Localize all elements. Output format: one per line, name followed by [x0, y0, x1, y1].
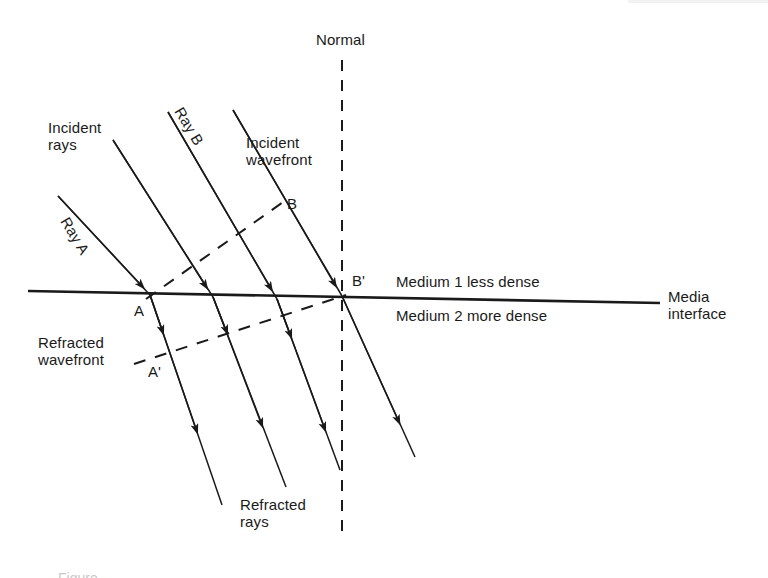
refracted-wavefront-line: [134, 295, 346, 364]
medium-1-label: Medium 1 less dense: [396, 273, 540, 290]
refracted-ray-4-arrow: [342, 296, 398, 420]
media-interface-label: Media interface: [668, 288, 726, 322]
refracted-ray-group: [150, 295, 415, 505]
figure-canvas: Normal Incident rays Ray A Ray B Inciden…: [0, 0, 768, 578]
incident-rays-label: Incident rays: [48, 119, 101, 153]
refracted-wavefront-label: Refracted wavefront: [38, 334, 104, 368]
refracted-rays-label: Refracted rays: [240, 496, 306, 530]
refracted-ray-1-arrow-lower: [150, 295, 196, 429]
point-b-prime-label: B': [352, 272, 365, 289]
point-a-prime-label: A': [148, 363, 161, 380]
incident-wavefront-line: [146, 200, 286, 299]
point-a-label: A: [134, 302, 144, 319]
refraction-diagram: [0, 0, 768, 578]
incident-ray-2-arrow: [113, 140, 205, 285]
point-b-label: B: [287, 195, 297, 212]
normal-label: Normal: [316, 31, 365, 48]
incident-wavefront-label: Incident wavefront: [246, 134, 312, 168]
medium-2-label: Medium 2 more dense: [396, 307, 547, 324]
refracted-ray-2-arrow-lower: [213, 297, 261, 423]
figure-caption-partial: Figure: [58, 570, 318, 578]
refracted-ray-3-arrow-lower: [277, 299, 324, 427]
